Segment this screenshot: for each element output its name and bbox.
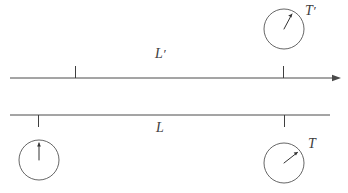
label-clock-primed: T′	[305, 4, 316, 18]
clock-primed-right	[264, 9, 304, 49]
label-length-primed-mark: ′	[163, 46, 166, 61]
label-length-rest: L	[156, 121, 164, 135]
physics-diagram-canvas: L′ L T′ T	[0, 0, 348, 193]
diagram-vector-layer	[0, 0, 348, 193]
label-clock-rest: T	[308, 137, 316, 151]
label-length-rest-text: L	[156, 120, 164, 135]
rest-frame-axis	[10, 115, 330, 127]
label-length-primed: L′	[155, 47, 166, 61]
primed-frame-axis	[10, 66, 341, 81]
primed-axis-arrowhead-icon	[332, 75, 341, 81]
label-clock-primed-text: T	[305, 3, 313, 18]
label-length-primed-text: L	[155, 46, 163, 61]
clock-rest-left-hand-tip-icon	[37, 143, 41, 147]
clock-rest-left	[19, 140, 59, 180]
clock-rest-right	[264, 143, 304, 183]
label-clock-rest-text: T	[308, 136, 316, 151]
label-clock-primed-mark: ′	[313, 3, 316, 18]
